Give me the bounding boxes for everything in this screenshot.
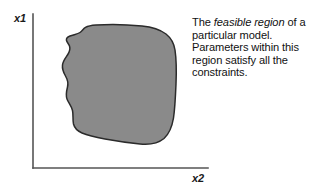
x-axis-label: x2 [191, 172, 204, 184]
y-axis-label: x1 [13, 12, 26, 24]
feasible-region-diagram: x1 x2 The feasible region of a particula… [0, 0, 316, 188]
caption-text: The feasible region of a particular mode… [192, 16, 314, 79]
caption-emphasis: feasible region [214, 16, 285, 28]
caption-line1-prefix: The [192, 16, 214, 28]
feasible-region-shape [62, 24, 176, 144]
